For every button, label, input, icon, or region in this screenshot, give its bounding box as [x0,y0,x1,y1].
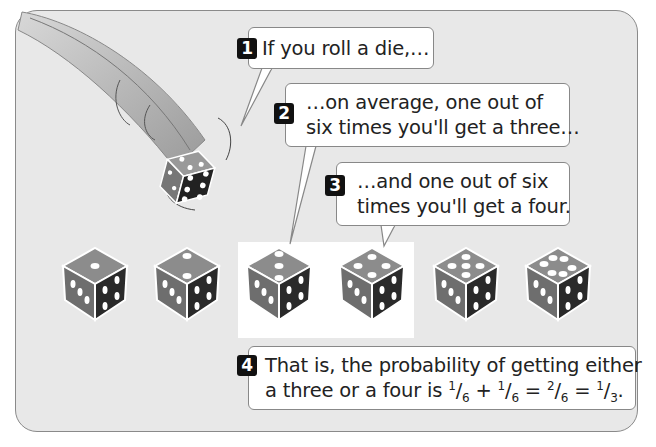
step-text-line-2: times you'll get a four. [357,194,571,219]
die-face-5-icon [434,248,498,320]
callout-tail-2 [290,146,316,244]
step-text-line-1: …on average, one out of [306,90,580,115]
die-face-6-icon [526,248,590,320]
fraction: 1/6 [448,379,469,402]
callout-step-1: 1 If you roll a die,… [248,27,434,69]
die-face-1-icon [63,248,127,320]
callout-step-3: 3 …and one out of six times you'll get a… [336,162,570,226]
fraction: 1/3. [596,379,623,402]
step-number-badge: 2 [274,103,294,124]
callout-step-4: 4 That is, the probability of getting ei… [248,346,636,410]
step-number-badge: 3 [325,175,345,196]
fraction: 1/6 [498,379,519,402]
step-text: If you roll a die,… [262,36,429,61]
callout-tail-1 [241,68,272,126]
fraction: 2/6 [547,379,568,402]
step-text-line-1: …and one out of six [357,169,571,194]
step-text-line-2: a three or a four is 1/6 + 1/6 = 2/6 = 1… [265,378,642,403]
step-text-line-2: six times you'll get a three… [306,115,580,140]
step-number-badge: 1 [237,38,257,59]
callout-tail-3 [381,225,395,246]
probability-expression: 1/6 + 1/6 = 2/6 = 1/3. [448,379,623,402]
step-text-line-1: That is, the probability of getting eith… [265,353,642,378]
die-face-2-icon [155,248,219,320]
die-face-4-icon [340,248,404,320]
die-face-3-icon [247,248,311,320]
callout-step-2: 2 …on average, one out of six times you'… [285,83,570,147]
step-number-badge: 4 [237,355,257,376]
